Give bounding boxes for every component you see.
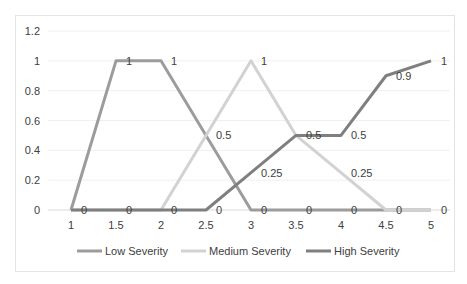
series-line-low-severity: [71, 61, 431, 210]
legend: Low SeverityMedium SeverityHigh Severity: [77, 245, 400, 257]
y-tick-label: 1: [34, 55, 40, 67]
y-tick-label: 0.8: [25, 85, 40, 97]
y-tick-label: 0.4: [25, 144, 40, 156]
legend-item: High Severity: [306, 245, 400, 257]
data-label: 0: [351, 204, 357, 216]
x-tick-label: 1: [68, 219, 74, 231]
data-label: 0: [441, 204, 447, 216]
series-line-medium-severity: [71, 61, 431, 210]
x-tick-label: 3: [248, 219, 254, 231]
x-tick-label: 3.5: [288, 219, 303, 231]
data-label: 0: [216, 204, 222, 216]
x-tick-label: 2: [158, 219, 164, 231]
x-tick-label: 1.5: [108, 219, 123, 231]
data-label: 0: [171, 204, 177, 216]
data-label: 0.5: [306, 129, 321, 141]
y-tick-label: 0.6: [25, 115, 40, 127]
data-label: 1: [441, 55, 447, 67]
data-labels: 010100.5010.2500.500.50.2500.9010: [81, 55, 447, 216]
x-tick-label: 5: [428, 219, 434, 231]
y-tick-label: 0: [34, 204, 40, 216]
line-chart: 00.20.40.60.811.2 11.522.533.544.55 0101…: [0, 0, 467, 284]
data-label: 0: [126, 204, 132, 216]
data-label: 0.25: [261, 167, 282, 179]
series-line-high-severity: [71, 61, 431, 210]
data-label: 1: [261, 55, 267, 67]
x-tick-label: 2.5: [198, 219, 213, 231]
data-label: 0.9: [396, 70, 411, 82]
legend-label: High Severity: [334, 245, 400, 257]
data-label: 0: [396, 204, 402, 216]
data-label: 0.5: [216, 129, 231, 141]
data-label: 1: [126, 55, 132, 67]
series-lines: [71, 61, 431, 210]
data-label: 1: [171, 55, 177, 67]
data-label: 0: [306, 204, 312, 216]
gridlines: [48, 31, 450, 210]
legend-label: Medium Severity: [209, 245, 291, 257]
data-label: 0.5: [351, 129, 366, 141]
legend-item: Low Severity: [77, 245, 168, 257]
y-tick-label: 0.2: [25, 174, 40, 186]
data-label: 0: [81, 204, 87, 216]
legend-label: Low Severity: [105, 245, 168, 257]
x-tick-label: 4.5: [378, 219, 393, 231]
y-tick-label: 1.2: [25, 25, 40, 37]
data-label: 0: [261, 204, 267, 216]
x-axis-ticks: 11.522.533.544.55: [68, 219, 434, 231]
legend-item: Medium Severity: [181, 245, 291, 257]
data-label: 0.25: [351, 167, 372, 179]
x-tick-label: 4: [338, 219, 344, 231]
y-axis-ticks: 00.20.40.60.811.2: [25, 25, 40, 216]
